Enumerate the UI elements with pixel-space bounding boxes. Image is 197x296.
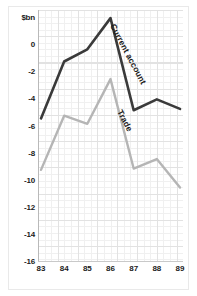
y-tick-label: -4 bbox=[5, 95, 35, 103]
x-tick-label: 85 bbox=[76, 264, 98, 274]
chart-container: $bn 0-2-4-6-8-10-12-14-16 83848586878889… bbox=[0, 0, 197, 296]
line-current-account bbox=[41, 18, 180, 118]
plot-area bbox=[38, 10, 183, 262]
y-axis-unit-label: $bn bbox=[5, 14, 35, 22]
y-tick-label: -12 bbox=[5, 204, 35, 212]
x-tick-label: 89 bbox=[169, 264, 191, 274]
y-tick-label: -2 bbox=[5, 68, 35, 76]
x-tick-label: 86 bbox=[100, 264, 122, 274]
y-axis-labels: $bn 0-2-4-6-8-10-12-14-16 bbox=[2, 10, 35, 262]
x-tick-label: 84 bbox=[53, 264, 75, 274]
series-layer bbox=[38, 10, 183, 262]
x-axis-labels: 83848586878889 bbox=[38, 264, 183, 278]
x-tick-label: 88 bbox=[146, 264, 168, 274]
x-tick-label: 83 bbox=[30, 264, 52, 274]
y-tick-label: -6 bbox=[5, 123, 35, 131]
y-tick-label: 0 bbox=[5, 41, 35, 49]
x-tick-label: 87 bbox=[123, 264, 145, 274]
line-trade bbox=[41, 79, 180, 187]
y-tick-label: -8 bbox=[5, 150, 35, 158]
y-tick-label: -10 bbox=[5, 177, 35, 185]
y-tick-label: -14 bbox=[5, 231, 35, 239]
